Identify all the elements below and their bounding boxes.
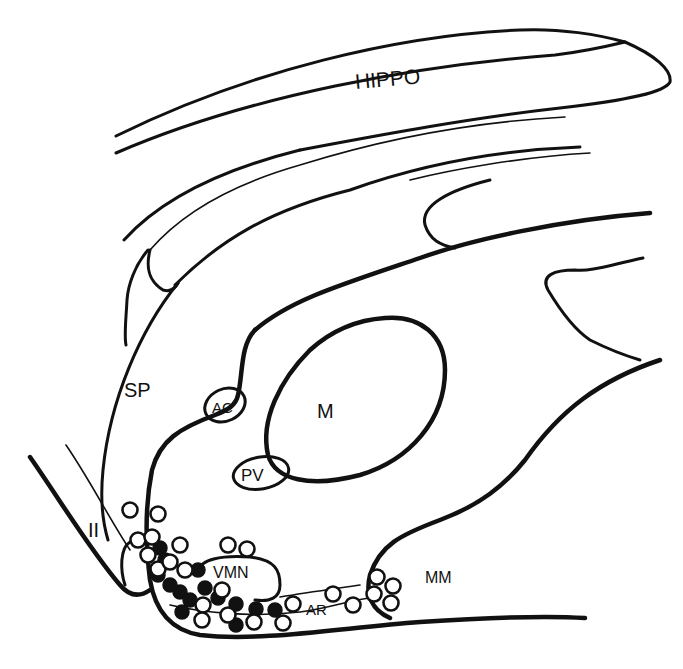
label-mm: MM (425, 569, 452, 586)
label-hippo: HIPPO (354, 64, 421, 93)
label-ac: AC (212, 399, 233, 416)
fornix-outline (255, 180, 650, 330)
m-nucleus-outline (266, 318, 445, 481)
label-ar: AR (306, 601, 327, 618)
label-m: M (317, 400, 334, 422)
label-pv: PV (241, 466, 264, 485)
label-vmn: VMN (213, 564, 249, 581)
label-optic-ii: II (88, 519, 99, 541)
thalamus-curves (368, 258, 660, 618)
septum-outline (66, 250, 178, 550)
brain-section-figure: HIPPO SP AC M PV VMN AR MM II (0, 0, 683, 669)
label-sp: SP (124, 379, 151, 401)
diagram-canvas: HIPPO SP AC M PV VMN AR MM II (0, 0, 683, 669)
